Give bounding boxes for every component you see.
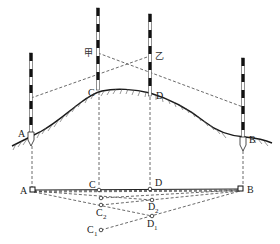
- point-C: [97, 188, 101, 192]
- label-C2-sub: 2: [103, 213, 107, 221]
- label-D2-sub: 2: [155, 207, 159, 215]
- label-B-top: B: [249, 134, 256, 145]
- sight-lines: [31, 53, 243, 107]
- pole-C: [97, 8, 100, 90]
- label-C2: C: [96, 207, 103, 218]
- label-jia: 甲: [84, 48, 93, 58]
- label-yi: 乙: [155, 51, 164, 61]
- label-D-top: D: [156, 90, 163, 101]
- label-A-top: A: [18, 128, 26, 139]
- label-C-plan: C: [89, 179, 96, 190]
- surveying-diagram: A C D B 甲 乙 A B C D C 2 D 2: [0, 0, 280, 244]
- point-D: [148, 187, 152, 191]
- label-D1-sub: 1: [154, 224, 158, 232]
- point-B-plan: [238, 186, 243, 191]
- plan-view: [30, 186, 243, 232]
- hill-profile: [12, 89, 272, 150]
- projection-lines: [32, 92, 243, 187]
- pole-A: [28, 53, 34, 146]
- pole-D: [149, 14, 152, 96]
- label-B-plan: B: [247, 184, 254, 195]
- label-A-plan: A: [20, 185, 28, 196]
- pole-B: [240, 58, 246, 151]
- point-C1: [99, 228, 103, 232]
- label-C-top: C: [88, 87, 95, 98]
- label-D-plan: D: [155, 177, 162, 188]
- label-C1: C: [87, 224, 94, 235]
- point-C-prime: [99, 196, 103, 200]
- label-C1-sub: 1: [94, 230, 98, 238]
- point-A-plan: [30, 187, 35, 192]
